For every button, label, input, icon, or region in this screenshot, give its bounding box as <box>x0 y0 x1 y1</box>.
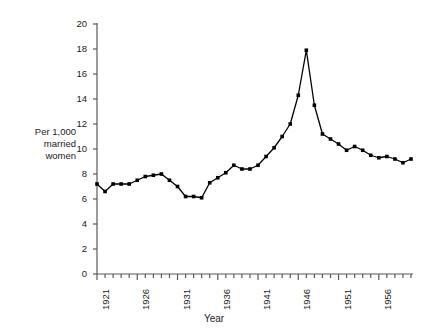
data-point <box>127 182 131 186</box>
data-point <box>329 137 333 141</box>
data-point <box>208 181 212 185</box>
data-point <box>160 172 164 176</box>
data-point <box>248 167 252 171</box>
data-point <box>111 182 115 186</box>
axes <box>97 23 413 274</box>
data-point <box>184 195 188 199</box>
data-point <box>280 135 284 139</box>
data-point <box>369 153 373 157</box>
data-point <box>313 103 317 107</box>
data-point <box>409 157 413 161</box>
data-markers <box>95 48 413 199</box>
data-point <box>377 156 381 160</box>
data-point <box>232 163 236 167</box>
data-point <box>264 155 268 159</box>
plot-area <box>0 0 428 333</box>
data-point <box>385 155 389 159</box>
data-point <box>272 146 276 150</box>
data-point <box>103 190 107 194</box>
data-point <box>353 145 357 149</box>
data-point <box>361 148 365 152</box>
data-point <box>95 182 99 186</box>
data-point <box>256 163 260 167</box>
data-point <box>345 148 349 152</box>
data-point <box>296 93 300 97</box>
data-point <box>305 48 309 52</box>
data-point <box>240 167 244 171</box>
data-point <box>216 176 220 180</box>
data-point <box>200 196 204 200</box>
x-axis-label: Year <box>0 313 428 324</box>
data-point <box>192 195 196 199</box>
data-point <box>135 178 139 182</box>
data-point <box>401 161 405 165</box>
data-point <box>176 185 180 189</box>
data-point <box>321 132 325 136</box>
data-point <box>393 157 397 161</box>
data-point <box>288 122 292 126</box>
data-point <box>144 175 148 179</box>
data-point <box>224 171 228 175</box>
data-point <box>337 142 341 146</box>
chart-figure: Per 1,000 married women 0246810121416182… <box>0 0 428 333</box>
data-point <box>119 182 123 186</box>
data-point <box>152 173 156 177</box>
data-point <box>168 178 172 182</box>
